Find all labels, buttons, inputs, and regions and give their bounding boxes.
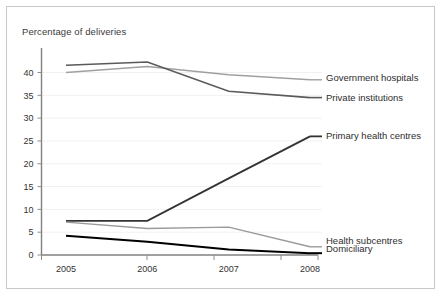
x-tick-label: 2005 [56,264,76,274]
series-label-primary-health-centres: Primary health centres [326,130,421,141]
y-tick-label: 20 [23,159,33,169]
data-series [66,62,322,253]
x-axis-tick-labels: 2005200620072008 [56,264,320,274]
x-tick-label: 2006 [137,264,157,274]
series-labels: Government hospitalsPrivate institutions… [326,72,421,253]
y-tick-label: 5 [28,227,33,237]
y-tick-label: 15 [23,182,33,192]
line-chart-plot: 0510152025303540 2005200620072008 Govern… [0,0,441,295]
series-label-private-institutions: Private institutions [326,92,403,103]
series-label-domiciliary: Domiciliary [326,243,373,254]
x-tick-label: 2007 [219,264,239,274]
series-line [66,222,310,247]
series-label-government-hospitals: Government hospitals [326,72,419,83]
y-tick-label: 0 [28,250,33,260]
y-tick-label: 30 [23,113,33,123]
y-axis-tick-labels: 0510152025303540 [23,68,33,261]
x-tick-label: 2008 [300,264,320,274]
series-line [66,67,310,80]
chart-figure: Percentage of deliveries 051015202530354… [0,0,441,295]
series-line [66,62,310,98]
y-tick-label: 25 [23,136,33,146]
y-tick-label: 10 [23,205,33,215]
series-line [66,136,310,220]
y-tick-label: 35 [23,91,33,101]
y-tick-label: 40 [23,68,33,78]
